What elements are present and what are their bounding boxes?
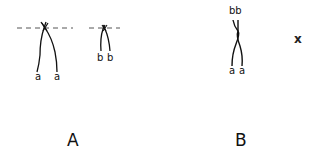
panel-a-chromosome-b [89, 25, 120, 51]
chromatid-right [237, 20, 242, 66]
allele-label-a-bottom-left: a [229, 66, 235, 76]
panel-b-recombinant-chromosome [232, 20, 242, 66]
allele-label-b-right: b [107, 53, 113, 63]
diagram-drawing [0, 0, 316, 153]
allele-label-a-left: a [35, 72, 41, 82]
panel-label-a: A [67, 132, 79, 149]
allele-label-a-right: a [54, 72, 60, 82]
allele-label-bb-top: bb [229, 6, 242, 16]
panel-a-chromosome-a [17, 22, 73, 72]
panel-label-b: B [235, 132, 247, 149]
chromatid-left [37, 22, 46, 72]
allele-label-a-bottom-right: a [239, 66, 245, 76]
genetics-diagram: a a b b A bb a a B x [0, 0, 316, 153]
cross-symbol: x [294, 33, 302, 45]
allele-label-b-left: b [97, 53, 103, 63]
